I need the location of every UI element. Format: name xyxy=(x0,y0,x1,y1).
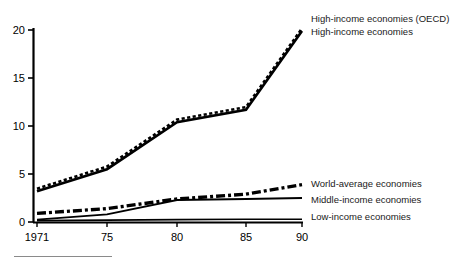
legend-label-high-income: High-income economies xyxy=(311,26,413,37)
y-tick-label-5: 5 xyxy=(19,168,25,180)
legend-label-high-income-oecd: High-income economies (OECD) xyxy=(311,13,449,24)
x-tick-label-75: 75 xyxy=(101,231,113,243)
x-tick-label-80: 80 xyxy=(171,231,183,243)
legend-label-middle-income: Middle-income economies xyxy=(311,194,422,205)
y-tick-label-15: 15 xyxy=(13,72,25,84)
x-tick-label-85: 85 xyxy=(240,231,252,243)
line-chart-figure: 20 15 10 5 0 1971 75 80 85 90 High-incom… xyxy=(0,0,476,267)
chart-background xyxy=(0,0,476,267)
y-tick-label-0: 0 xyxy=(19,216,25,228)
legend-label-world-average: World-average economies xyxy=(311,178,422,189)
y-tick-label-10: 10 xyxy=(13,120,25,132)
x-tick-label-1971: 1971 xyxy=(25,231,49,243)
legend-label-low-income: Low-income economies xyxy=(311,211,411,222)
y-tick-label-20: 20 xyxy=(13,24,25,36)
x-tick-label-90: 90 xyxy=(296,231,308,243)
